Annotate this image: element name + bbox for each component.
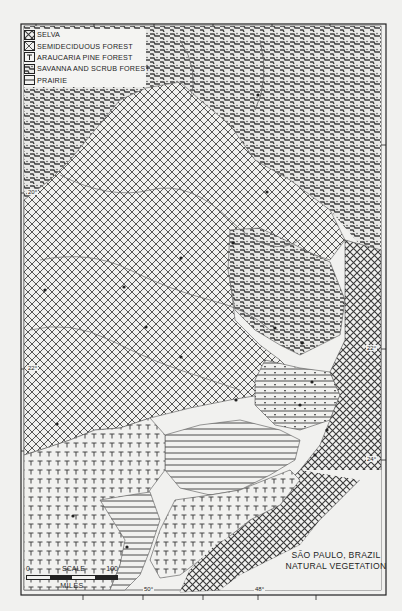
scale-graphic <box>26 575 118 580</box>
legend-label: SEMIDECIDUOUS FOREST <box>37 42 133 51</box>
legend-item-araucaria: ARAUCARIA PINE FOREST <box>24 52 146 63</box>
selva-swatch-icon <box>24 30 35 40</box>
legend-label: PRAIRIE <box>37 76 67 85</box>
scale-start: 0 <box>26 565 30 572</box>
longitude-label-48: 48° <box>254 586 265 592</box>
legend-label: ARAUCARIA PINE FOREST <box>37 53 133 62</box>
legend-item-prairie: PRAIRIE <box>24 75 146 86</box>
longitude-label-50: 50° <box>143 586 154 592</box>
legend-item-semideciduous: SEMIDECIDUOUS FOREST <box>24 40 146 51</box>
map-title-line1: SÃO PAULO, BRAZIL <box>280 550 392 561</box>
scale-units: MILES <box>26 582 118 589</box>
vegetation-map <box>0 0 402 611</box>
legend-item-savanna: SAVANNA AND SCRUB FOREST <box>24 63 146 74</box>
map-title: SÃO PAULO, BRAZIL NATURAL VEGETATION <box>280 550 392 572</box>
scale-end: 100 <box>106 565 118 572</box>
legend-item-selva: SELVA <box>24 29 146 40</box>
latitude-label-20: 20° <box>27 189 38 195</box>
savanna-swatch-icon <box>24 64 35 74</box>
araucaria-swatch-icon <box>24 52 35 62</box>
scale-label: SCALE <box>62 565 85 572</box>
map-legend: SELVA SEMIDECIDUOUS FOREST ARAUCARIA PIN… <box>24 29 146 87</box>
legend-label: SAVANNA AND SCRUB FOREST <box>37 64 150 73</box>
scale-bar: 0 SCALE 100 MILES <box>26 565 118 589</box>
legend-label: SELVA <box>37 30 60 39</box>
map-title-line2: NATURAL VEGETATION <box>280 561 392 572</box>
latitude-label-22-right: 22° <box>366 345 377 351</box>
latitude-label-24: 24° <box>366 456 377 462</box>
prairie-swatch-icon <box>24 75 35 85</box>
semideciduous-swatch-icon <box>24 41 35 51</box>
latitude-label-22-left: 22° <box>27 365 38 371</box>
